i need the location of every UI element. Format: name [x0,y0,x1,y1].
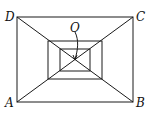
label-o: O [70,21,80,35]
geometry-diagram: D C A B O [0,0,148,115]
label-d: D [4,10,15,24]
label-b: B [135,96,145,110]
label-c: C [136,10,145,24]
label-a: A [4,96,14,110]
arrow-to-center-o [75,32,78,59]
